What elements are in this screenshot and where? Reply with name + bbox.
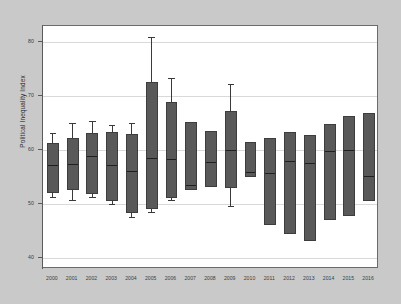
box-plot-2001[interactable] [67,26,79,267]
y-axis-tick [38,41,42,42]
box-plot-2008[interactable] [205,26,217,267]
y-axis-tick-label: 40 [4,254,34,260]
median-line [364,176,374,177]
whisker-cap-upper [228,84,235,85]
whisker-cap-lower [50,197,57,198]
box-plot-2011[interactable] [264,26,276,267]
x-axis-tick-label: 2013 [299,275,319,281]
box-plot-2010[interactable] [245,26,257,267]
box-body [363,113,375,201]
box-plot-2014[interactable] [324,26,336,267]
median-line [87,156,97,157]
median-line [226,150,236,151]
x-axis-tick-label: 2010 [240,275,260,281]
y-axis-tick [38,149,42,150]
box-body [284,132,296,234]
x-axis-tick-label: 2006 [160,275,180,281]
plot-frame [42,25,378,268]
y-axis-line [42,25,43,269]
whisker-upper [72,123,73,138]
whisker-cap-lower [228,206,235,207]
x-axis-tick-label: 2002 [81,275,101,281]
box-body [264,138,276,224]
whisker-upper [52,133,53,143]
median-line [147,158,157,159]
box-body [343,116,355,215]
box-plot-2013[interactable] [304,26,316,267]
x-axis-tick-label: 2008 [200,275,220,281]
y-axis-tick [38,203,42,204]
box-body [245,142,257,178]
whisker-cap-upper [89,121,96,122]
median-line [127,171,137,172]
median-line [305,163,315,164]
x-axis-tick-label: 2001 [62,275,82,281]
median-line [48,165,58,166]
whisker-lower [230,188,231,206]
box-body [106,132,118,201]
x-axis-tick-label: 2012 [279,275,299,281]
y-axis-tick-label: 50 [4,200,34,206]
median-line [68,164,78,165]
plot-area [43,26,377,267]
whisker-upper [92,121,93,133]
whisker-cap-lower [129,217,136,218]
whisker-cap-lower [148,212,155,213]
x-axis-tick-label: 2015 [338,275,358,281]
whisker-cap-lower [109,204,116,205]
x-axis-tick-label: 2003 [101,275,121,281]
box-plot-2015[interactable] [343,26,355,267]
box-body [205,131,217,188]
x-axis-tick-label: 2014 [319,275,339,281]
box-body [225,111,237,188]
y-axis-tick [38,95,42,96]
whisker-cap-upper [69,123,76,124]
box-body [166,102,178,198]
median-line [186,185,196,186]
box-plot-2009[interactable] [225,26,237,267]
x-axis-tick-labels: 2000200120022003200420052006200720082009… [42,275,378,285]
whisker-lower [72,190,73,200]
median-line [107,165,117,166]
box-plot-2007[interactable] [185,26,197,267]
box-body [67,138,79,190]
median-line [285,161,295,162]
box-plot-2006[interactable] [166,26,178,267]
box-body [304,135,316,241]
box-plot-2004[interactable] [126,26,138,267]
median-line [246,172,256,173]
whisker-cap-upper [168,78,175,79]
whisker-cap-upper [148,37,155,38]
box-body [86,133,98,194]
box-plot-2003[interactable] [106,26,118,267]
x-axis-tick-label: 2005 [141,275,161,281]
median-line [206,162,216,163]
median-line [344,150,354,151]
median-line [167,159,177,160]
whisker-cap-upper [129,123,136,124]
whisker-cap-upper [50,133,57,134]
median-line [325,151,335,152]
box-plot-2016[interactable] [363,26,375,267]
x-axis-tick-label: 2000 [42,275,62,281]
whisker-upper [131,123,132,134]
y-axis-title: Political Inequality Index [19,42,26,182]
y-axis-tick [38,257,42,258]
whisker-upper [151,37,152,82]
box-body [185,122,197,191]
box-plot-2012[interactable] [284,26,296,267]
median-line [265,173,275,174]
box-body [324,124,336,220]
box-body [126,134,138,213]
whisker-upper [230,84,231,111]
whisker-cap-lower [69,200,76,201]
whisker-cap-lower [168,200,175,201]
box-plot-2005[interactable] [146,26,158,267]
box-plot-2000[interactable] [47,26,59,267]
x-axis-tick-label: 2016 [358,275,378,281]
x-axis-tick-label: 2011 [259,275,279,281]
x-axis-tick-label: 2009 [220,275,240,281]
x-axis-tick-label: 2004 [121,275,141,281]
chart-figure: 4050607080 Political Inequality Index 20… [0,0,401,304]
box-plot-2002[interactable] [86,26,98,267]
